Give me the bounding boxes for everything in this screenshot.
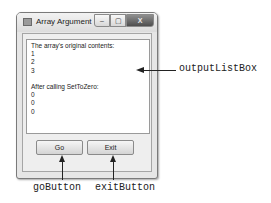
- output-list-box[interactable]: The array's original contents: 1 2 3 Aft…: [26, 39, 150, 134]
- list-item[interactable]: 0: [31, 91, 145, 99]
- go-callout-label: goButton: [33, 182, 81, 193]
- maximize-icon: ▢: [115, 17, 122, 24]
- list-item[interactable]: [31, 75, 145, 83]
- list-item[interactable]: 2: [31, 58, 145, 66]
- go-button[interactable]: Go: [36, 140, 83, 155]
- listbox-callout-line: [143, 70, 176, 71]
- maximize-button[interactable]: ▢: [110, 14, 126, 27]
- title-bar[interactable]: Array Argument – ▢ X: [17, 13, 157, 32]
- list-item[interactable]: 0: [31, 99, 145, 107]
- list-item[interactable]: After calling SetToZero:: [31, 83, 145, 91]
- exit-button[interactable]: Exit: [87, 140, 134, 155]
- window-title: Array Argument: [36, 17, 92, 26]
- close-icon: X: [138, 17, 143, 24]
- close-button[interactable]: X: [126, 14, 154, 27]
- list-item[interactable]: 0: [31, 108, 145, 116]
- app-icon: [23, 18, 32, 26]
- listbox-callout-label: outputListBox: [179, 63, 257, 74]
- minimize-icon: –: [100, 17, 104, 24]
- go-callout-line: [62, 160, 63, 180]
- form-client-area: The array's original contents: 1 2 3 Aft…: [22, 33, 152, 172]
- array-argument-window: Array Argument – ▢ X The array's origina…: [16, 12, 158, 179]
- list-item[interactable]: 3: [31, 67, 145, 75]
- exit-callout-line: [113, 160, 114, 180]
- exit-callout-label: exitButton: [95, 182, 155, 193]
- list-item[interactable]: 1: [31, 50, 145, 58]
- minimize-button[interactable]: –: [94, 14, 110, 27]
- list-item[interactable]: The array's original contents:: [31, 42, 145, 50]
